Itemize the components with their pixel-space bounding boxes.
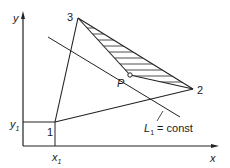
edge-1-2 bbox=[55, 89, 193, 122]
y-axis-arrow-icon bbox=[21, 11, 25, 19]
l1-const-line bbox=[48, 37, 180, 117]
x1-label: x1 bbox=[51, 151, 62, 165]
vertex-3-label: 3 bbox=[67, 11, 73, 23]
edge-1-3 bbox=[55, 18, 78, 122]
vertex-1-label: 1 bbox=[47, 126, 53, 138]
x-axis-arrow-icon bbox=[211, 144, 219, 148]
y1-label: y1 bbox=[9, 118, 20, 132]
edge-3-2 bbox=[78, 18, 193, 89]
l1-const-label: L1 = const bbox=[144, 122, 193, 136]
l1-leader-line bbox=[157, 111, 163, 121]
edge-P-2 bbox=[130, 75, 193, 89]
vertex-2-label: 2 bbox=[197, 84, 203, 96]
x-axis-label: x bbox=[209, 152, 216, 164]
y-axis-label: y bbox=[12, 12, 20, 24]
point-p-marker bbox=[128, 73, 132, 77]
edge-3-P bbox=[78, 18, 130, 75]
triangle-diagram: y x y1 x1 1 2 3 P L1 = const bbox=[0, 0, 230, 168]
point-p-label: P bbox=[117, 77, 125, 89]
